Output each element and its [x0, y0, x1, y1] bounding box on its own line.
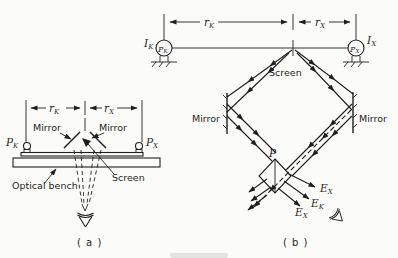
label-optical-bench: Optical bench [12, 180, 78, 191]
label-rx-b: rX [315, 16, 326, 30]
eye-icon-b [329, 208, 347, 226]
photometer-figure: rK rX Mirror Mirror Screen PK PX Optical… [0, 0, 398, 258]
photometer-cube [259, 159, 291, 193]
optical-bench-a [13, 158, 160, 167]
dimension-line-b [164, 14, 356, 30]
panel-b: rK rX PK IK PX IX Screen Mi [143, 14, 387, 248]
mirror-left-b [223, 93, 227, 134]
label-mirror-left-b: Mirror [192, 113, 220, 124]
mirror-right-b [353, 92, 357, 133]
bench-rail-a [21, 153, 143, 157]
lamp-pk-a [24, 143, 31, 153]
caption-a: ( a ) [77, 237, 102, 248]
label-mirror-right-b: Mirror [359, 113, 387, 124]
label-mirror-right-a: Mirror [99, 122, 127, 133]
label-mirror-left-a: Mirror [33, 122, 61, 133]
mirror-left-pointer-a [60, 133, 71, 139]
figure-canvas: rK rX Mirror Mirror Screen PK PX Optical… [0, 0, 398, 258]
lamp-px-a [136, 143, 143, 153]
label-px-circle-b: PX [349, 45, 360, 55]
label-screen-a: Screen [112, 172, 145, 183]
emergent-beams-left [248, 179, 271, 210]
light-band-upper-left [227, 50, 292, 112]
label-ik-b: IK [143, 37, 154, 51]
label-rk-b: rK [204, 16, 215, 30]
emergent-beams-right [278, 174, 315, 206]
label-rk-a: rK [49, 102, 60, 116]
light-band-upper-right [295, 50, 353, 110]
mirror-right-a [90, 132, 106, 148]
caption-b: ( b ) [283, 237, 309, 248]
screen-leader-a [88, 144, 114, 174]
label-ex-bottom: EX [294, 206, 309, 220]
sight-lines-a [74, 150, 101, 211]
mirror-left-a [64, 132, 80, 148]
panel-a: rK rX Mirror Mirror Screen PK PX Optical… [5, 100, 160, 248]
label-rx-a: rX [104, 102, 115, 116]
label-ex-top: EX [319, 182, 334, 196]
label-pk-circle-b: PK [157, 45, 168, 55]
cropped-caption-smudge [170, 253, 228, 258]
eye-icon-a [78, 213, 94, 227]
label-ix-b: IX [366, 34, 377, 48]
label-px-a: PX [145, 136, 159, 150]
label-screen-b: Screen [269, 67, 302, 78]
label-pk-a: PK [5, 136, 19, 150]
label-ek: EK [310, 197, 325, 211]
label-p-point: P [268, 147, 277, 159]
